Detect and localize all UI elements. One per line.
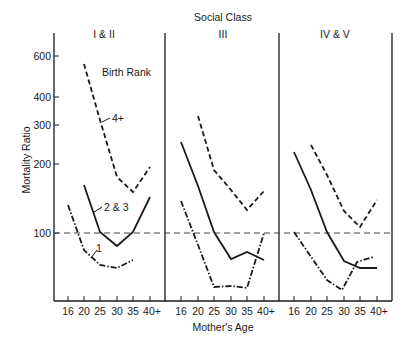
x-axis — [68, 296, 377, 301]
series-1-line — [68, 205, 133, 268]
panel-1-series — [68, 64, 150, 268]
panel-title-2: III — [219, 28, 228, 40]
series-2and3-line — [181, 142, 264, 260]
x-axis-label: Mother's Age — [193, 321, 254, 333]
xtick-16: 16 — [62, 305, 74, 317]
xtick-25: 25 — [208, 305, 220, 317]
ytick-100: 100 — [33, 227, 51, 239]
mortality-chart: Social Class I & II III IV & V 600 400 3… — [0, 0, 408, 346]
leader-4plus — [102, 118, 110, 122]
xtick-25: 25 — [94, 305, 106, 317]
xtick-35: 35 — [241, 305, 253, 317]
xtick-35: 35 — [127, 305, 139, 317]
chart-title: Social Class — [194, 11, 252, 23]
ytick-300: 300 — [33, 119, 51, 131]
y-axis — [54, 56, 59, 233]
series-2and3-line — [294, 152, 377, 268]
xtick-20: 20 — [305, 305, 317, 317]
xtick-20: 20 — [78, 305, 90, 317]
xtick-20: 20 — [192, 305, 204, 317]
series-1-line — [294, 232, 373, 290]
series-4plus-line — [84, 64, 150, 192]
label-4plus: 4+ — [112, 112, 124, 124]
panel-3-series — [294, 145, 377, 290]
xtick-35: 35 — [354, 305, 366, 317]
panel-title-1: I & II — [93, 28, 115, 40]
xtick-25: 25 — [321, 305, 333, 317]
xtick-40plus: 40+ — [370, 305, 388, 317]
xtick-40plus: 40+ — [257, 305, 275, 317]
xtick-40plus: 40+ — [143, 305, 161, 317]
xtick-16: 16 — [175, 305, 187, 317]
ytick-200: 200 — [33, 158, 51, 170]
label-2and3: 2 & 3 — [104, 201, 129, 213]
xtick-30: 30 — [225, 305, 237, 317]
legend-title: Birth Rank — [102, 66, 152, 78]
xtick-30: 30 — [338, 305, 350, 317]
y-axis-label: Mortality Ratio — [20, 126, 32, 193]
ytick-600: 600 — [33, 50, 51, 62]
xtick-16: 16 — [288, 305, 300, 317]
series-2and3-line — [84, 185, 150, 246]
xtick-30: 30 — [111, 305, 123, 317]
label-1: 1 — [96, 242, 102, 254]
x-tick-labels: 16 20 25 30 35 40+ 16 20 25 30 35 40+ 16… — [62, 305, 388, 317]
leader-2and3 — [94, 207, 102, 212]
series-4plus-line — [198, 116, 264, 210]
panel-2-series — [181, 116, 264, 288]
ytick-400: 400 — [33, 91, 51, 103]
panel-title-3: IV & V — [320, 28, 350, 40]
